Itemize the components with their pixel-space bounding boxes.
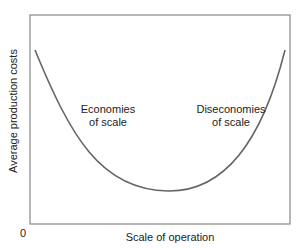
origin-label: 0 — [18, 227, 28, 240]
x-axis-label: Scale of operation — [110, 231, 230, 244]
diseconomies-line2: of scale — [186, 116, 276, 129]
economies-of-scale-label: Economies of scale — [68, 103, 148, 129]
economies-line2: of scale — [68, 116, 148, 129]
diseconomies-line1: Diseconomies — [186, 103, 276, 116]
y-axis-label: Average production costs — [7, 63, 19, 173]
diseconomies-of-scale-label: Diseconomies of scale — [186, 103, 276, 129]
economies-line1: Economies — [68, 103, 148, 116]
